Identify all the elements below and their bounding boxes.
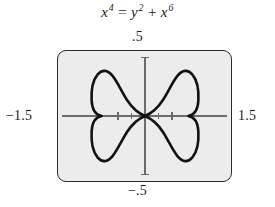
window-label-ymin: −.5 xyxy=(0,183,275,199)
curve-upper-branch xyxy=(145,71,198,116)
equation-rhs-term2: x6 xyxy=(161,4,174,21)
window-label-xmax: 1.5 xyxy=(238,108,256,124)
graph-screen xyxy=(57,50,232,182)
equation-rhs-term1: y2 xyxy=(131,4,144,21)
curve-lower-branch xyxy=(145,116,198,161)
curve-upper-branch-left xyxy=(92,71,145,116)
equation-caption: x4=y2+x6 xyxy=(0,4,275,21)
equation-lhs: x4 xyxy=(101,4,114,21)
curve-lower-branch-left xyxy=(92,116,145,161)
equation-rhs-term1-exponent: 2 xyxy=(139,2,144,13)
window-label-xmin: −1.5 xyxy=(6,108,32,124)
plot-svg xyxy=(58,51,231,181)
window-label-ymax: .5 xyxy=(0,29,275,45)
equation-lhs-base: x xyxy=(101,4,108,20)
equation-rhs-term1-base: y xyxy=(131,4,138,20)
figure-container: x4=y2+x6 .5 −.5 −1.5 1.5 xyxy=(0,0,275,207)
equation-rhs-term2-exponent: 6 xyxy=(168,2,173,13)
plus-sign: + xyxy=(148,4,157,20)
equation-lhs-exponent: 4 xyxy=(109,2,114,13)
equation-rhs-term2-base: x xyxy=(161,4,168,20)
equals-sign: = xyxy=(118,4,127,20)
